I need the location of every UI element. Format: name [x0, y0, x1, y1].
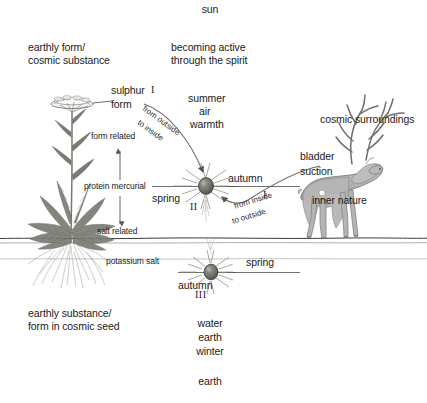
- label-salt-related: salt related: [97, 226, 137, 236]
- label-sun: sun: [180, 3, 240, 16]
- label-inner-nature: inner nature: [312, 194, 367, 207]
- label-becoming-active: becoming active through the spirit: [171, 41, 247, 66]
- label-bladder: bladder: [300, 150, 334, 163]
- label-earthly-form: earthly form/ cosmic substance: [28, 41, 110, 66]
- label-form-related: form related: [91, 131, 135, 141]
- label-spring-lower: spring: [246, 256, 274, 269]
- label-sulphur: sulphur: [111, 84, 145, 97]
- yarrow-plant-icon: [28, 96, 115, 289]
- label-earthly-substance: earthly substance/ form in cosmic seed: [28, 307, 119, 332]
- label-spring-upper: spring: [152, 192, 180, 205]
- label-autumn-upper: autumn: [228, 172, 262, 185]
- label-cosmic-surroundings: cosmic surroundings: [320, 113, 414, 126]
- label-warmth: warmth: [190, 118, 224, 131]
- label-winter: winter: [180, 345, 240, 358]
- label-water: water: [180, 317, 240, 330]
- seed-star-icon-upper: [173, 163, 230, 222]
- label-summer: summer: [188, 92, 225, 105]
- flower-leader-line: [93, 101, 112, 103]
- numeral-three: III: [195, 289, 207, 300]
- numeral-two: II: [190, 201, 198, 212]
- label-earth-element: earth: [180, 331, 240, 344]
- arc-label-from-inside: from inside: [233, 191, 273, 211]
- label-form: form: [111, 98, 132, 111]
- label-suction: suction: [300, 165, 333, 178]
- flower-head: [51, 96, 93, 113]
- label-earth-bottom: earth: [180, 375, 240, 388]
- label-protein-mercurial: protein mercurial: [84, 181, 146, 191]
- label-potassium-salt: potassium salt: [106, 256, 159, 266]
- numeral-one-top: I: [151, 84, 155, 95]
- label-air: air: [199, 105, 210, 118]
- ground-line-group: [0, 238, 427, 259]
- diagram-canvas: sun earthly form/ cosmic substance becom…: [0, 0, 427, 403]
